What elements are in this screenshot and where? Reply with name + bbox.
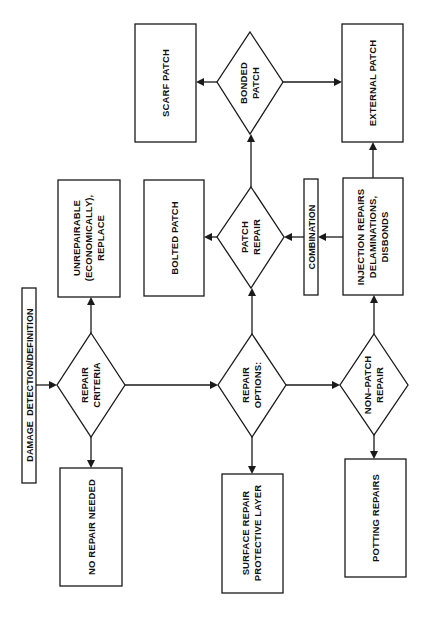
arrowhead-icon xyxy=(369,142,377,150)
bolted-patch-label: BOLTED PATCH xyxy=(169,201,180,275)
node-bolted-patch: BOLTED PATCH xyxy=(144,180,204,296)
node-unrepairable: UNREPAIRABLE (ECONOMICALLY), REPLACE xyxy=(58,180,120,297)
node-combination: COMBINATION xyxy=(304,179,318,295)
arrowhead-icon xyxy=(248,466,256,474)
arrowhead-icon xyxy=(210,381,218,389)
repair-criteria-line-2: CRITERIA xyxy=(91,362,102,408)
scarf-patch-label: SCARF PATCH xyxy=(160,49,171,117)
unrepairable-line-1: UNREPAIRABLE xyxy=(71,200,82,276)
node-repair-options: REPAIR OPTIONS: xyxy=(218,334,286,437)
patch-repair-line-1: PATCH xyxy=(239,221,250,253)
node-bonded-patch: BONDED PATCH xyxy=(217,32,283,134)
unrepairable-line-2: (ECONOMICALLY), xyxy=(83,195,94,282)
arrowhead-icon xyxy=(248,288,256,296)
node-surface-repair: SURFACE REPAIR PROTECTIVE LAYER xyxy=(222,474,283,593)
potting-repairs-label: POTTING REPAIRS xyxy=(370,474,381,562)
node-damage-detection: DAMAGE DETECTION/DEFINITION xyxy=(22,288,36,483)
arrowhead-icon xyxy=(49,381,57,389)
arrowhead-icon xyxy=(370,295,378,303)
bonded-patch-line-1: BONDED xyxy=(238,62,249,104)
surface-repair-line-2: PROTECTIVE LAYER xyxy=(252,485,263,581)
node-potting-repairs: POTTING REPAIRS xyxy=(345,459,406,577)
repair-options-line-2: OPTIONS: xyxy=(252,362,263,409)
non-patch-repair-line-2: REPAIR xyxy=(374,367,385,403)
node-external-patch: EXTERNAL PATCH xyxy=(342,24,403,142)
external-patch-label: EXTERNAL PATCH xyxy=(367,40,378,126)
no-repair-needed-label: NO REPAIR NEEDED xyxy=(86,479,97,575)
arrowhead-icon xyxy=(332,381,340,389)
node-non-patch-repair: NON–PATCH REPAIR xyxy=(340,334,408,435)
node-repair-criteria: REPAIR CRITERIA xyxy=(57,333,125,437)
damage-detection-label: DAMAGE DETECTION/DEFINITION xyxy=(25,308,35,461)
node-scarf-patch: SCARF PATCH xyxy=(135,24,196,142)
unrepairable-line-3: REPLACE xyxy=(95,215,106,261)
non-patch-repair-line-1: NON–PATCH xyxy=(362,356,373,415)
repair-options-line-1: REPAIR xyxy=(240,367,251,403)
arrowhead-icon xyxy=(370,451,378,459)
arrowhead-icon xyxy=(334,78,342,86)
repair-criteria-line-1: REPAIR xyxy=(79,367,90,403)
node-no-repair-needed: NO REPAIR NEEDED xyxy=(60,468,122,586)
injection-repairs-line-2: DELAMINATIONS, xyxy=(367,196,378,279)
arrowhead-icon xyxy=(87,460,95,468)
arrowhead-icon xyxy=(204,233,212,241)
repair-flowchart: DAMAGE DETECTION/DEFINITION REPAIR CRITE… xyxy=(0,0,421,628)
node-patch-repair: PATCH REPAIR xyxy=(217,187,284,288)
arrowhead-icon xyxy=(196,78,204,86)
arrowhead-icon xyxy=(87,297,95,305)
combination-label: COMBINATION xyxy=(307,205,317,270)
arrowhead-icon xyxy=(284,233,292,241)
arrowhead-icon xyxy=(247,134,255,142)
node-injection-repairs: INJECTION REPAIRS DELAMINATIONS, DISBOND… xyxy=(343,178,403,295)
injection-repairs-line-3: DISBONDS xyxy=(379,212,390,263)
patch-repair-line-2: REPAIR xyxy=(251,219,262,255)
surface-repair-line-1: SURFACE REPAIR xyxy=(240,491,251,576)
bonded-patch-line-2: PATCH xyxy=(250,67,261,99)
arrowhead-icon xyxy=(318,233,326,241)
injection-repairs-line-1: INJECTION REPAIRS xyxy=(355,189,366,286)
